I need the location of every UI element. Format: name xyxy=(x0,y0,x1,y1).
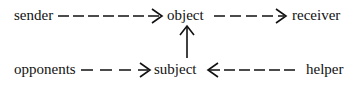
node-sender: sender xyxy=(14,8,53,23)
edge-subject-object xyxy=(180,26,194,58)
edge-object-receiver xyxy=(214,9,286,23)
edge-opponents-subject xyxy=(81,63,150,77)
node-opponents: opponents xyxy=(14,62,76,77)
actantial-diagram: sender object receiver opponents subject… xyxy=(0,0,358,89)
node-subject: subject xyxy=(154,62,197,77)
node-receiver: receiver xyxy=(292,8,340,23)
edge-helper-subject xyxy=(208,63,298,77)
node-object: object xyxy=(167,8,204,23)
edge-sender-object xyxy=(58,9,162,23)
node-helper: helper xyxy=(306,62,343,77)
